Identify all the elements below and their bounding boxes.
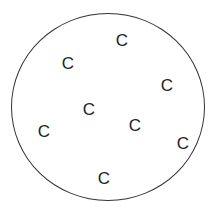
particle-label: C (62, 55, 74, 72)
particle-label: C (177, 135, 189, 152)
particle-label: C (129, 117, 141, 134)
particle-label: C (161, 77, 173, 94)
particle-label: C (83, 101, 95, 118)
particle-label: C (98, 170, 110, 187)
particle-label: C (116, 32, 128, 49)
particle-label: C (38, 123, 50, 140)
